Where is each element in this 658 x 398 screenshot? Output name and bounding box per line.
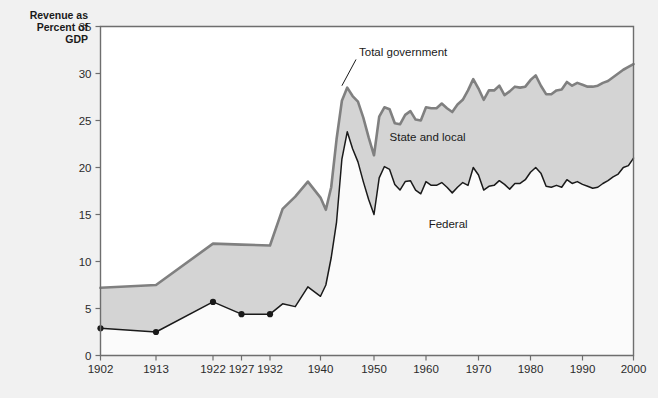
x-axis-tick-label: 1960: [413, 363, 439, 375]
y-axis-tick-label: 5: [85, 303, 91, 315]
federal-data-point: [210, 299, 216, 305]
x-axis-tick-label: 1970: [466, 363, 492, 375]
y-axis-tick-label: 25: [79, 115, 92, 127]
x-axis-tick-label: 1990: [570, 363, 596, 375]
y-axis-title-line-1: Revenue as: [30, 9, 89, 21]
annotation-total-government: Total government: [359, 46, 448, 58]
x-axis-tick-label: 1950: [361, 363, 387, 375]
y-axis-tick-label: 30: [79, 68, 92, 80]
y-axis-tick-label: 20: [79, 162, 92, 174]
y-axis-title-line-3: GDP: [65, 33, 88, 45]
federal-data-point: [153, 329, 159, 335]
x-axis-tick-label: 1927: [229, 363, 255, 375]
x-axis-tick-label: 1922: [200, 363, 226, 375]
y-axis-tick-label: 15: [79, 209, 92, 221]
x-axis-tick-label: 1980: [518, 363, 544, 375]
x-axis-tick-label: 1902: [88, 363, 114, 375]
y-axis-tick-label: 10: [79, 256, 92, 268]
federal-data-point: [238, 311, 244, 317]
annotation-federal: Federal: [429, 218, 468, 230]
y-axis-title-line-2: Percent of: [37, 21, 89, 33]
revenue-percent-gdp-chart: 05101520253035 1902191319221927193219401…: [0, 0, 658, 398]
x-axis-tick-label: 1913: [143, 363, 169, 375]
chart-page: 05101520253035 1902191319221927193219401…: [0, 0, 658, 398]
x-axis-tick-label: 1940: [308, 363, 334, 375]
x-axis-tick-label: 2000: [621, 363, 647, 375]
x-axis-tick-label: 1932: [257, 363, 283, 375]
y-axis-tick-label: 0: [85, 350, 91, 362]
annotation-state-and-local: State and local: [390, 131, 466, 143]
federal-data-point: [267, 311, 273, 317]
